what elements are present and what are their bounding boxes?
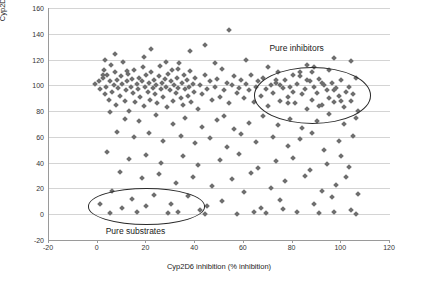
x-tick-mark [97, 240, 98, 243]
data-point [108, 62, 114, 68]
data-point [212, 61, 218, 67]
data-point [117, 169, 123, 175]
data-point [175, 66, 181, 72]
data-point [148, 46, 154, 52]
data-point [346, 164, 352, 170]
x-tick-mark [145, 240, 146, 243]
data-point [144, 152, 150, 158]
data-point [236, 151, 242, 157]
x-tick-mark [389, 240, 390, 243]
data-point [343, 174, 349, 180]
data-point [222, 88, 228, 94]
data-point [122, 98, 128, 104]
data-point [302, 173, 308, 179]
data-point [312, 201, 318, 207]
data-point [174, 75, 180, 81]
y-tick-label: 140 [4, 30, 44, 37]
data-point [285, 143, 291, 149]
data-point [169, 67, 175, 73]
data-point [192, 140, 198, 146]
data-point [290, 155, 296, 161]
data-point [329, 195, 335, 201]
data-point [158, 160, 164, 166]
data-point [241, 189, 247, 195]
data-point [137, 94, 143, 100]
x-tick-mark [194, 240, 195, 243]
data-point [231, 126, 237, 132]
x-tick-mark [243, 240, 244, 243]
data-point [202, 72, 208, 78]
y-tick-label: 160 [4, 5, 44, 12]
data-point [161, 138, 167, 144]
data-point [222, 113, 228, 119]
data-point [334, 182, 340, 188]
data-point [112, 70, 118, 76]
data-point [147, 97, 153, 103]
x-tick-label: 120 [371, 244, 407, 251]
data-point [246, 88, 252, 94]
x-tick-label: 100 [322, 244, 358, 251]
x-tick-label: 0 [79, 244, 115, 251]
scatter-chart: Cyp2D6 metabolic stability (% remaining)… [0, 0, 429, 289]
data-point [127, 108, 133, 114]
data-point [234, 211, 240, 217]
data-point [278, 197, 284, 203]
data-point [123, 88, 129, 94]
data-point [135, 86, 141, 92]
x-tick-label: 20 [127, 244, 163, 251]
y-tick-label: 0 [4, 211, 44, 218]
data-point [167, 88, 173, 94]
y-tick-label: 120 [4, 56, 44, 63]
y-tick-label: 20 [4, 185, 44, 192]
data-point [248, 72, 254, 78]
data-point [185, 93, 191, 99]
data-point [114, 129, 120, 135]
data-point [248, 170, 254, 176]
data-point [122, 116, 128, 122]
data-point [197, 82, 203, 88]
data-point [243, 57, 249, 63]
data-point [214, 76, 220, 82]
data-point [253, 139, 259, 145]
x-tick-mark [340, 240, 341, 243]
data-point [187, 48, 193, 54]
y-tick-label: 40 [4, 159, 44, 166]
data-point [106, 97, 112, 103]
data-point [102, 57, 108, 63]
data-point [191, 89, 197, 95]
data-point [200, 92, 206, 98]
data-point [219, 66, 225, 72]
annotation-pure-inhibitors: Pure inhibitors [269, 43, 323, 53]
pure-inhibitors-ellipse [254, 67, 371, 124]
gridline-horizontal [49, 8, 390, 9]
y-tick-label: 100 [4, 82, 44, 89]
data-point [270, 134, 276, 140]
data-point [148, 70, 154, 76]
data-point [180, 153, 186, 159]
data-point [229, 82, 235, 88]
data-point [219, 198, 225, 204]
data-point [324, 161, 330, 167]
data-point [173, 180, 179, 186]
data-point [192, 75, 198, 81]
data-point [229, 177, 235, 183]
x-tick-mark [48, 240, 49, 243]
data-point [170, 98, 176, 104]
data-point [140, 64, 146, 70]
data-point [107, 110, 113, 116]
data-point [275, 122, 281, 128]
data-point [139, 175, 145, 181]
data-point [336, 138, 342, 144]
data-point [164, 104, 170, 110]
data-point [207, 79, 213, 85]
data-point [309, 130, 315, 136]
data-point [146, 130, 152, 136]
data-point [113, 102, 119, 108]
data-point [353, 211, 359, 217]
data-point [163, 59, 169, 65]
data-point [224, 144, 230, 150]
data-point [280, 206, 286, 212]
x-tick-label: -20 [30, 244, 66, 251]
data-point [341, 121, 347, 127]
data-point [131, 134, 137, 140]
